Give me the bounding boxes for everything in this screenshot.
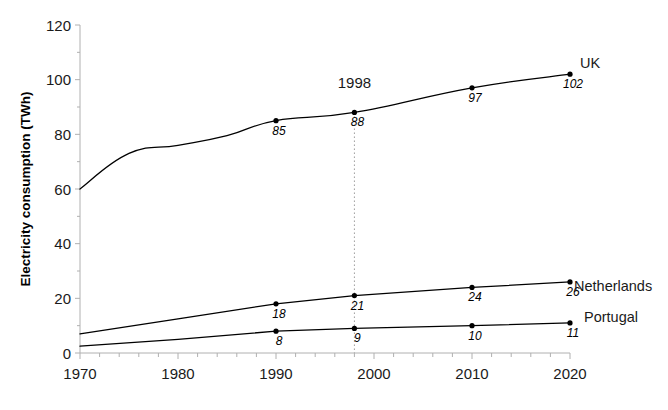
y-axis-tick-label: 40 [54, 235, 71, 252]
data-point-label: 18 [272, 307, 286, 321]
data-point-label: 9 [354, 331, 361, 345]
series-layer [80, 72, 573, 347]
data-point-marker [273, 118, 278, 123]
y-axis: 020406080100120 [46, 17, 80, 362]
data-point-label: 11 [567, 326, 579, 340]
data-point-label: 10 [468, 329, 482, 343]
y-axis-tick-label: 100 [46, 71, 71, 88]
data-point-marker [469, 85, 474, 90]
x-axis: 197019801990200020102020 [63, 353, 586, 382]
data-point-marker [273, 301, 278, 306]
x-axis-tick-label: 1990 [259, 365, 292, 382]
data-point-label: 8 [276, 334, 283, 348]
data-point-marker [469, 323, 474, 328]
data-point-marker [273, 329, 278, 334]
y-axis-tick-label: 120 [46, 17, 71, 34]
data-point-marker [567, 279, 572, 284]
data-point-marker [352, 110, 357, 115]
x-axis-tick-label: 1970 [63, 365, 96, 382]
data-point-label: 21 [350, 299, 364, 313]
y-axis-tick-label: 20 [54, 290, 71, 307]
data-point-label: 24 [467, 290, 482, 304]
series-label-portugal: Portugal [584, 309, 638, 325]
data-point-label: 85 [272, 124, 286, 138]
data-point-label: 102 [563, 77, 583, 91]
x-axis-tick-label: 1980 [161, 365, 194, 382]
chart-canvas: 020406080100120 197019801990200020102020… [0, 0, 668, 410]
data-point-marker [352, 293, 357, 298]
y-axis-title: Electricity consumption (TWh) [18, 91, 33, 286]
y-axis-tick-label: 80 [54, 126, 71, 143]
axis-title-layer: Electricity consumption (TWh) [18, 91, 33, 286]
data-point-marker [567, 320, 572, 325]
data-point-label: 88 [351, 115, 365, 129]
x-axis-tick-label: 2010 [455, 365, 488, 382]
y-axis-tick-label: 0 [63, 345, 71, 362]
x-axis-tick-label: 2020 [553, 365, 586, 382]
data-label-layer: 858897102UK18212426Netherlands891011Port… [272, 55, 652, 348]
series-label-uk: UK [580, 55, 600, 71]
series-line-netherlands [80, 282, 570, 334]
data-point-marker [469, 285, 474, 290]
data-point-label: 97 [468, 91, 483, 105]
data-point-marker [352, 326, 357, 331]
line-chart: 020406080100120 197019801990200020102020… [0, 0, 668, 410]
annotation-year-label: 1998 [338, 74, 371, 91]
y-axis-tick-label: 60 [54, 181, 71, 198]
data-point-marker [567, 72, 572, 77]
x-axis-tick-label: 2000 [357, 365, 390, 382]
series-line-uk [80, 74, 570, 189]
series-label-netherlands: Netherlands [574, 278, 652, 294]
series-line-portugal [80, 323, 570, 346]
